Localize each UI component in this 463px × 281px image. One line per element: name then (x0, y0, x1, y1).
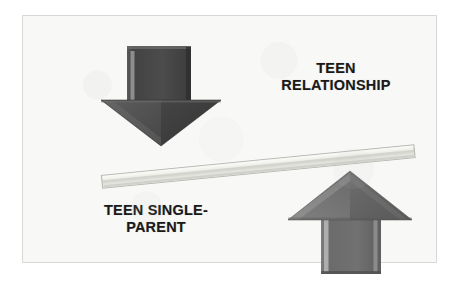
label-teen-relationship: TEEN RELATIONSHIP (261, 60, 411, 94)
diagram-canvas: TEEN RELATIONSHIP TEEN SINGLE- PARENT (0, 0, 463, 281)
down-arrow (99, 44, 223, 154)
label-teen-single-parent: TEEN SINGLE- PARENT (81, 202, 231, 236)
diagram-frame: TEEN RELATIONSHIP TEEN SINGLE- PARENT (22, 15, 437, 263)
up-arrow (286, 168, 414, 281)
